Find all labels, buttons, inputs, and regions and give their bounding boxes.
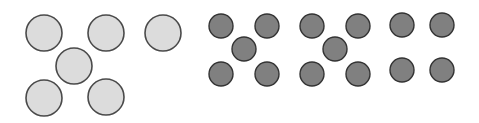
dark-circle: [255, 62, 279, 86]
dark-circle: [300, 62, 324, 86]
dark-circle: [209, 14, 233, 38]
dark-circle: [255, 14, 279, 38]
circle-diagram: [0, 0, 479, 123]
dark-circle: [390, 58, 414, 82]
dark-circle: [346, 14, 370, 38]
light-circle-group: [26, 15, 181, 116]
light-circle: [88, 79, 124, 115]
light-circle: [26, 80, 62, 116]
light-circle: [26, 15, 62, 51]
dark-circle-group-2: [300, 14, 370, 86]
dark-circle: [430, 58, 454, 82]
dark-circle: [209, 62, 233, 86]
light-circle: [88, 15, 124, 51]
dark-circle-group-3: [390, 13, 454, 82]
light-circle: [56, 48, 92, 84]
dark-circle: [390, 13, 414, 37]
diagram-canvas: [0, 0, 479, 123]
dark-circle: [323, 37, 347, 61]
dark-circle: [232, 37, 256, 61]
dark-circle: [346, 62, 370, 86]
dark-circle-group-1: [209, 14, 279, 86]
dark-circle: [430, 13, 454, 37]
dark-circle: [300, 14, 324, 38]
light-circle: [145, 15, 181, 51]
